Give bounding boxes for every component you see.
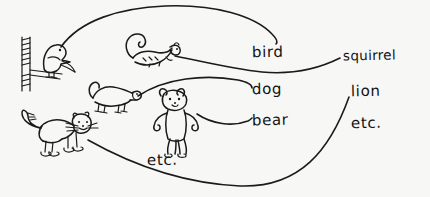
label-bird: bird bbox=[252, 45, 284, 61]
dog-drawing bbox=[89, 82, 141, 113]
label-etc-middle: etc. bbox=[147, 153, 178, 169]
diagram-canvas: bird squirrel dog lion bear etc. etc. bbox=[0, 0, 430, 197]
label-bear: bear bbox=[252, 113, 289, 129]
connector-dog bbox=[138, 77, 252, 96]
label-dog: dog bbox=[252, 82, 282, 98]
bird-drawing bbox=[22, 37, 75, 91]
label-squirrel: squirrel bbox=[343, 48, 396, 63]
connector-lion bbox=[88, 97, 349, 186]
squirrel-drawing bbox=[126, 34, 180, 67]
lion-drawing bbox=[22, 110, 98, 156]
connector-bear bbox=[197, 114, 252, 124]
bear-drawing bbox=[154, 89, 198, 158]
connector-bird bbox=[61, 6, 277, 47]
label-etc-right: etc. bbox=[351, 116, 382, 132]
label-lion: lion bbox=[351, 84, 381, 100]
connector-lines bbox=[61, 6, 349, 186]
